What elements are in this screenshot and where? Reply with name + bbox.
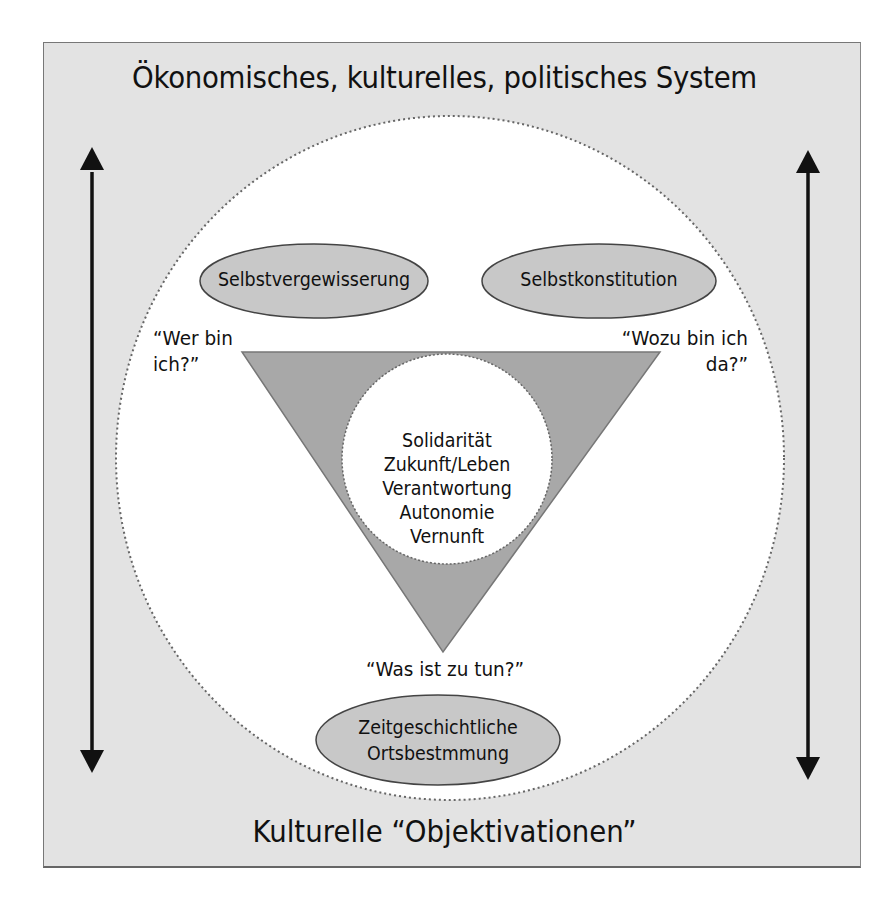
question-bottom: “Was ist zu tun?” bbox=[348, 656, 541, 682]
question-left: “Wer bin ich?” bbox=[153, 325, 233, 377]
core-value: Solidarität bbox=[360, 428, 535, 452]
core-values: Solidarität Zukunft/Leben Verantwortung … bbox=[360, 428, 535, 548]
question-left-line1: “Wer bin bbox=[153, 325, 233, 351]
question-right: “Wozu bin ich da?” bbox=[593, 325, 748, 377]
bottom-label: Kulturelle “Objektivationen” bbox=[36, 814, 854, 849]
top-label: Ökonomisches, kulturelles, politisches S… bbox=[36, 60, 854, 95]
core-value: Autonomie bbox=[360, 500, 535, 524]
ellipse-bottom-line1: Zeitgeschichtliche bbox=[326, 714, 550, 740]
core-value: Vernunft bbox=[360, 524, 535, 548]
double-arrow-right-icon bbox=[796, 150, 820, 780]
double-arrow-left-icon bbox=[80, 147, 104, 773]
ellipse-bottom-label: Zeitgeschichtliche Ortsbestmmung bbox=[326, 714, 550, 766]
question-left-line2: ich?” bbox=[153, 351, 233, 377]
ellipse-bottom-line2: Ortsbestmmung bbox=[326, 740, 550, 766]
core-value: Verantwortung bbox=[360, 476, 535, 500]
ellipse-left-label: Selbstvergewisserung bbox=[209, 268, 419, 290]
ellipse-right-label: Selbstkonstitution bbox=[491, 268, 706, 290]
question-right-line2: da?” bbox=[593, 351, 748, 377]
core-value: Zukunft/Leben bbox=[360, 452, 535, 476]
question-right-line1: “Wozu bin ich bbox=[593, 325, 748, 351]
